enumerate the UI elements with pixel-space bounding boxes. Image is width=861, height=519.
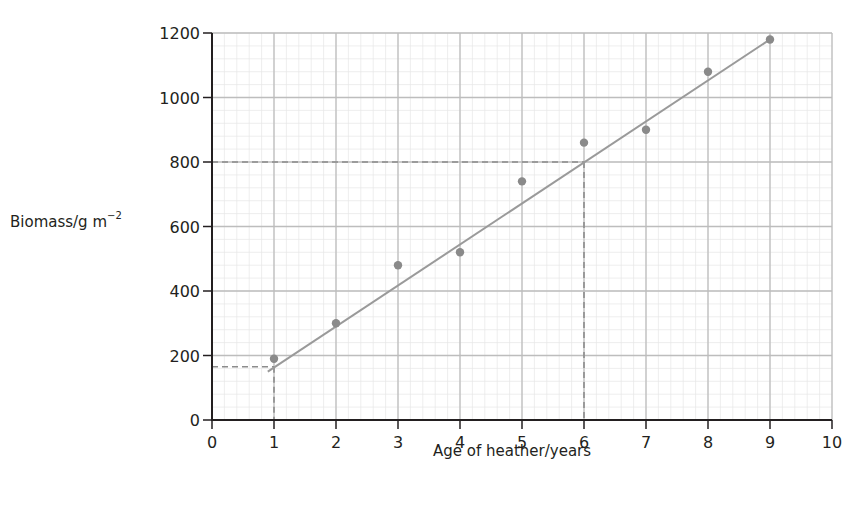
- x-tick-label: 10: [822, 433, 842, 452]
- x-tick-label: 0: [207, 433, 217, 452]
- x-tick-label: 1: [269, 433, 279, 452]
- data-point: [270, 355, 278, 363]
- y-tick-label: 0: [190, 411, 200, 430]
- data-point: [580, 138, 588, 146]
- x-tick-label: 9: [765, 433, 775, 452]
- x-tick-label: 2: [331, 433, 341, 452]
- biomass-chart: 020040060080010001200 012345678910: [0, 0, 861, 519]
- x-tick-label: 3: [393, 433, 403, 452]
- x-axis-title: Age of heather/years: [433, 442, 591, 460]
- data-point: [456, 248, 464, 256]
- y-axis-title-exponent: −2: [107, 210, 122, 221]
- y-tick-label: 400: [169, 282, 200, 301]
- y-tick-label: 1000: [159, 89, 200, 108]
- major-grid: [212, 33, 832, 420]
- y-axis-ticks: 020040060080010001200: [159, 24, 212, 430]
- y-tick-label: 600: [169, 218, 200, 237]
- best-fit-line-path: [268, 39, 770, 371]
- data-point: [642, 126, 650, 134]
- y-tick-label: 800: [169, 153, 200, 172]
- best-fit-line: [268, 39, 770, 371]
- y-axis-title: Biomass/g m−2: [10, 212, 122, 231]
- data-point: [394, 261, 402, 269]
- data-point: [518, 177, 526, 185]
- x-tick-label: 8: [703, 433, 713, 452]
- data-point: [766, 35, 774, 43]
- data-point: [704, 68, 712, 76]
- y-axis-title-main: Biomass/g m: [10, 213, 107, 231]
- x-tick-label: 7: [641, 433, 651, 452]
- y-tick-label: 200: [169, 347, 200, 366]
- y-tick-label: 1200: [159, 24, 200, 43]
- data-point: [332, 319, 340, 327]
